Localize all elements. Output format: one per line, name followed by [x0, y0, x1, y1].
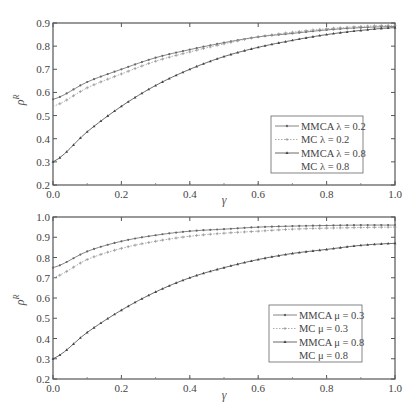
data-marker — [250, 37, 253, 40]
data-marker — [346, 226, 349, 229]
data-marker — [72, 257, 74, 259]
data-marker — [257, 230, 260, 233]
data-marker — [134, 237, 136, 239]
data-marker — [380, 226, 383, 229]
data-marker — [175, 231, 177, 233]
data-marker — [93, 83, 96, 86]
data-marker — [298, 225, 300, 227]
y-tick-label: 0.6 — [36, 292, 50, 304]
y-axis-label: ρR — [12, 95, 27, 107]
data-marker — [100, 75, 102, 77]
data-marker — [305, 227, 308, 230]
figure-canvas: 0.00.20.40.60.81.00.20.30.40.50.60.70.80… — [0, 0, 418, 419]
data-marker — [120, 68, 122, 70]
data-marker — [394, 226, 397, 229]
data-marker — [99, 80, 102, 83]
data-marker — [243, 38, 246, 41]
series-line — [53, 225, 395, 268]
data-marker — [168, 232, 170, 234]
data-marker — [332, 226, 335, 229]
data-marker — [339, 226, 342, 229]
legend-marker-icon — [284, 314, 286, 316]
data-marker — [264, 34, 267, 37]
legend-marker-icon — [286, 125, 288, 127]
data-marker — [134, 67, 137, 70]
data-marker — [359, 226, 362, 229]
data-marker — [257, 35, 260, 38]
legend-label: MMCA λ = 0.2 — [301, 121, 366, 132]
y-tick-label: 0.4 — [36, 333, 50, 345]
y-axis-label: ρR — [12, 295, 27, 307]
data-marker — [113, 71, 115, 73]
data-marker — [243, 227, 245, 229]
data-marker — [209, 233, 212, 236]
data-marker — [59, 264, 61, 266]
data-marker — [141, 236, 143, 238]
x-tick-label: 0.8 — [320, 382, 334, 394]
series-line — [53, 227, 395, 278]
data-marker — [107, 244, 109, 246]
data-marker — [229, 231, 232, 234]
data-marker — [86, 250, 88, 252]
x-axis-label: γ — [222, 388, 227, 402]
legend-label: MC λ = 0.8 — [301, 161, 349, 172]
data-marker — [72, 88, 74, 90]
data-marker — [223, 232, 226, 235]
data-marker — [360, 224, 362, 226]
data-marker — [387, 226, 390, 229]
x-axis-label: γ — [222, 193, 227, 207]
y-tick-label: 0.5 — [36, 312, 50, 324]
data-marker — [120, 240, 122, 242]
data-marker — [319, 225, 321, 227]
legend: MMCA λ = 0.2MC λ = 0.2MMCA λ = 0.8MC λ =… — [271, 116, 366, 173]
data-marker — [250, 230, 253, 233]
y-tick-label: 0.7 — [36, 272, 50, 284]
y-tick-label: 0.4 — [36, 133, 50, 145]
data-marker — [353, 224, 355, 226]
data-marker — [127, 245, 130, 248]
y-tick-label: 0.3 — [36, 156, 50, 168]
bottom-chart-panel: 0.00.20.40.60.81.00.20.30.40.50.60.70.80… — [12, 211, 402, 402]
data-marker — [270, 33, 273, 36]
data-marker — [79, 84, 81, 86]
data-marker — [168, 238, 171, 241]
legend-item: MC μ = 0.8 — [299, 350, 348, 361]
data-marker — [147, 62, 150, 65]
data-marker — [181, 236, 184, 239]
data-marker — [127, 66, 129, 68]
x-tick-label: 0.4 — [183, 188, 197, 200]
data-marker — [188, 50, 191, 53]
data-marker — [373, 226, 376, 229]
data-marker — [284, 228, 287, 231]
series-1 — [53, 226, 397, 278]
data-marker — [367, 224, 369, 226]
data-marker — [154, 240, 157, 243]
data-marker — [175, 54, 178, 57]
data-marker — [195, 234, 198, 237]
x-tick-label: 0.2 — [115, 382, 129, 394]
x-tick-label: 0.8 — [320, 188, 334, 200]
data-marker — [99, 253, 102, 256]
series-line — [53, 26, 395, 99]
data-marker — [79, 253, 81, 255]
data-marker — [182, 231, 184, 233]
x-tick-label: 0.6 — [251, 382, 265, 394]
data-marker — [86, 86, 89, 89]
y-tick-label: 0.9 — [36, 231, 50, 243]
top-chart-panel: 0.00.20.40.60.81.00.20.30.40.50.60.70.80… — [12, 17, 402, 207]
legend-label: MC μ = 0.3 — [299, 323, 348, 334]
data-marker — [107, 73, 109, 75]
data-marker — [196, 230, 198, 232]
series-0 — [52, 25, 396, 100]
data-marker — [134, 244, 137, 247]
data-marker — [127, 70, 130, 73]
data-marker — [52, 98, 54, 100]
data-marker — [181, 52, 184, 55]
y-tick-label: 0.2 — [36, 373, 50, 385]
data-marker — [284, 225, 286, 227]
x-tick-label: 1.0 — [388, 188, 402, 200]
data-marker — [120, 72, 123, 75]
legend-item: MC λ = 0.8 — [301, 161, 349, 172]
data-marker — [264, 226, 266, 228]
data-marker — [59, 96, 61, 98]
